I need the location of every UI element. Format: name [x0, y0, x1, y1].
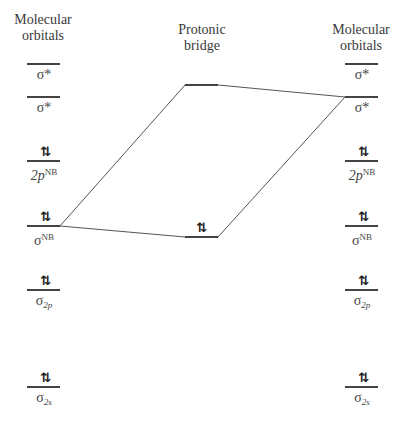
left-electron-pair-sigma-2p: ⇅ — [24, 274, 64, 288]
label-text: σ — [34, 233, 42, 248]
right-level-sigma-nb — [345, 225, 378, 227]
right-level-sigma-star-upper — [345, 63, 378, 65]
left-label-sigma-star-lower: σ* — [14, 100, 74, 116]
label-sup: NB — [360, 232, 373, 242]
label-sub: 2p — [43, 300, 52, 310]
label-text: σ — [354, 390, 362, 405]
right-label-sigma-star-upper: σ* — [332, 67, 392, 83]
right-label-2p-nb: 2pNB — [332, 164, 392, 184]
left-label-sigma-2p: σ2p — [14, 293, 74, 313]
right-electron-pair-sigma-2s: ⇅ — [342, 371, 382, 385]
bridge-electron-pair: ⇅ — [180, 221, 220, 235]
left-label-sigma-2s: σ2s — [14, 390, 74, 410]
left-label-sigma-nb: σNB — [14, 229, 74, 249]
right-label-sigma-2p: σ2p — [332, 293, 392, 313]
label-text: 2p — [31, 168, 45, 183]
label-sup: NB — [42, 232, 55, 242]
right-level-sigma-2s — [345, 386, 378, 388]
left-level-sigma-star-lower — [27, 96, 60, 98]
label-sup: NB — [363, 167, 376, 177]
left-level-sigma-star-upper — [27, 63, 60, 65]
left-label-sigma-star-upper: σ* — [14, 67, 74, 83]
right-level-2p-nb — [345, 160, 378, 162]
left-level-sigma-nb — [27, 225, 60, 227]
right-electron-pair-sigma-nb: ⇅ — [342, 210, 382, 224]
right-label-sigma-2s: σ2s — [332, 390, 392, 410]
right-level-sigma-star-lower — [345, 96, 378, 98]
mo-diagram: Molecular orbitals Protonic bridge Molec… — [0, 0, 413, 424]
right-label-sigma-nb: σNB — [332, 229, 392, 249]
label-sub: 2p — [361, 300, 370, 310]
right-electron-pair-sigma-2p: ⇅ — [342, 274, 382, 288]
label-text: σ — [352, 233, 360, 248]
label-text: 2p — [349, 168, 363, 183]
right-label-sigma-star-lower: σ* — [332, 100, 392, 116]
left-electron-pair-sigma-2s: ⇅ — [24, 371, 64, 385]
left-level-sigma-2s — [27, 386, 60, 388]
bridge-level-lower — [185, 236, 218, 238]
label-sup: NB — [45, 167, 58, 177]
left-level-sigma-2p — [27, 289, 60, 291]
right-level-sigma-2p — [345, 289, 378, 291]
left-label-2p-nb: 2pNB — [14, 164, 74, 184]
left-level-2p-nb — [27, 160, 60, 162]
label-sub: 2s — [362, 397, 370, 407]
right-electron-pair-2pnb: ⇅ — [342, 145, 382, 159]
left-electron-pair-2pnb: ⇅ — [24, 145, 64, 159]
left-electron-pair-sigma-nb: ⇅ — [24, 210, 64, 224]
label-text: σ — [36, 390, 44, 405]
bridge-level-upper — [185, 84, 218, 86]
label-sub: 2s — [44, 397, 52, 407]
